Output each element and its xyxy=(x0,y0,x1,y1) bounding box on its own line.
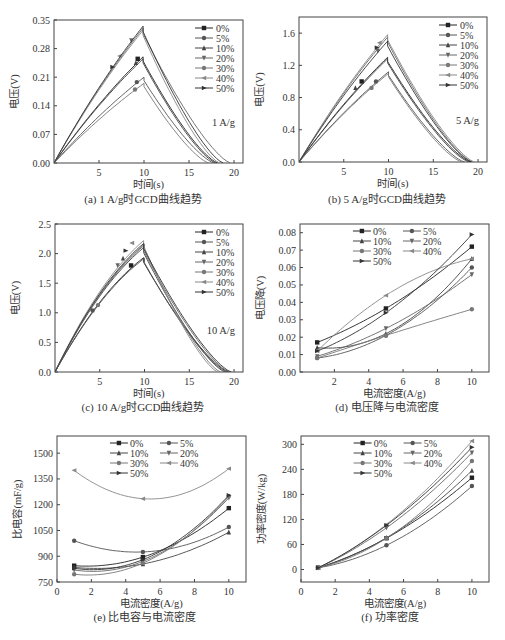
series-line-50% xyxy=(54,26,223,163)
legend-marker-icon xyxy=(360,229,364,233)
x-axis-label: 时间(s) xyxy=(377,177,409,190)
y-tick-label: 1350 xyxy=(33,473,53,484)
legend-marker-icon xyxy=(166,461,171,465)
y-tick-label: 1.5 xyxy=(39,278,52,289)
series-line-30% xyxy=(318,461,472,568)
y-tick-label: 0 xyxy=(292,564,297,575)
series-marker-icon xyxy=(470,265,474,269)
caption-b: (b) 5 A/g时GCD曲线趋势 xyxy=(272,190,502,206)
legend: 0%5%10%20%30%40%50% xyxy=(110,438,198,479)
y-tick-label: 0.28 xyxy=(33,43,51,54)
legend: 0%5%10%20%30%40%50% xyxy=(195,227,234,298)
x-tick-label: 10 xyxy=(467,586,477,597)
caption-a: (a) 1 A/g时GCD曲线趋势 xyxy=(28,190,258,206)
series-line-5% xyxy=(74,527,229,552)
series-marker-icon xyxy=(124,248,129,252)
legend-marker-icon xyxy=(410,461,415,465)
series-line-30% xyxy=(299,73,462,162)
series-line-50% xyxy=(318,447,472,568)
legend-marker-icon xyxy=(360,471,365,475)
x-tick-label: 10 xyxy=(140,376,150,387)
legend-label: 50% xyxy=(373,256,391,267)
chart-a: 0.000.070.140.210.280.355101520时间(s)电压(V… xyxy=(8,15,243,192)
series-marker-icon xyxy=(227,506,231,510)
current-density-annotation: 5 A/g xyxy=(456,115,480,126)
legend-label: 40% xyxy=(180,458,198,469)
series-marker-icon xyxy=(353,85,357,90)
y-tick-label: 0.01 xyxy=(279,349,297,360)
series-marker-icon xyxy=(135,80,139,84)
series-lines xyxy=(71,466,231,576)
series-marker-icon xyxy=(470,484,474,488)
x-tick-label: 5 xyxy=(341,166,346,177)
legend-marker-icon xyxy=(446,33,450,37)
y-tick-label: 0.03 xyxy=(279,314,297,325)
x-tick-label: 20 xyxy=(229,376,239,387)
series-marker-icon xyxy=(470,272,474,277)
x-tick-label: 4 xyxy=(367,586,372,597)
series-lines xyxy=(315,439,474,571)
series-line-40% xyxy=(74,469,229,499)
series-marker-icon xyxy=(72,539,76,543)
figure-grid: 0.000.070.140.210.280.355101520时间(s)电压(V… xyxy=(0,0,505,640)
y-tick-label: 0.8 xyxy=(283,92,296,103)
legend: 0%5%10%20%30%40%50% xyxy=(195,23,234,94)
y-axis-label: 电压降(V) xyxy=(254,275,267,320)
series-marker-icon xyxy=(469,439,474,443)
legend-label: 40% xyxy=(424,458,442,469)
legend-label: 50% xyxy=(216,83,234,94)
series-marker-icon xyxy=(470,468,474,473)
legend-marker-icon xyxy=(167,441,171,445)
series-line-20% xyxy=(55,246,230,372)
series-marker-icon xyxy=(96,303,100,307)
plot-frame xyxy=(301,436,489,582)
legend-label: 40% xyxy=(423,246,441,257)
x-tick-label: 10 xyxy=(467,376,477,387)
legend-marker-icon xyxy=(446,63,450,67)
legend: 0%5%10%20%30%40%50% xyxy=(354,438,442,479)
series-line-20% xyxy=(318,453,472,568)
legend-marker-icon xyxy=(202,240,206,244)
series-line-30% xyxy=(74,496,229,575)
y-tick-label: 0.08 xyxy=(279,227,297,238)
x-tick-label: 6 xyxy=(401,376,406,387)
x-tick-label: 20 xyxy=(473,166,483,177)
y-tick-label: 0.07 xyxy=(33,129,51,140)
series-line-40% xyxy=(54,30,220,163)
x-tick-label: 4 xyxy=(366,376,371,387)
series-line-40% xyxy=(318,441,472,568)
caption-f: (f) 功率密度 xyxy=(275,608,505,624)
chart-c: 0.00.51.01.52.02.55101520时间(s)电压(V)10 A/… xyxy=(9,219,243,401)
series-marker-icon xyxy=(369,86,373,90)
x-tick-label: 5 xyxy=(97,167,102,178)
legend-marker-icon xyxy=(202,270,206,274)
y-tick-label: 0.14 xyxy=(33,100,51,111)
x-tick-label: 0 xyxy=(299,586,304,597)
series-marker-icon xyxy=(470,244,474,248)
legend-marker-icon xyxy=(202,66,206,70)
legend-marker-icon xyxy=(117,441,121,445)
legend-marker-icon xyxy=(360,461,364,465)
y-tick-label: 240 xyxy=(282,464,297,475)
series-line-0% xyxy=(318,478,472,568)
legend-label: 50% xyxy=(374,468,392,479)
y-tick-label: 0.5 xyxy=(39,337,52,348)
series-line-40% xyxy=(55,241,218,372)
y-tick-label: 2.0 xyxy=(39,248,52,259)
x-tick-label: 15 xyxy=(428,166,438,177)
y-tick-label: 0.02 xyxy=(279,332,297,343)
y-tick-label: 900 xyxy=(38,551,53,562)
legend-marker-icon xyxy=(202,86,207,90)
legend-marker-icon xyxy=(202,36,206,40)
series-marker-icon xyxy=(141,550,145,554)
y-tick-label: 0.0 xyxy=(283,157,296,168)
series-marker-icon xyxy=(72,572,76,576)
legend-marker-icon xyxy=(360,249,364,253)
y-tick-label: 60 xyxy=(287,539,297,550)
legend-marker-icon xyxy=(360,259,365,263)
legend-marker-icon xyxy=(360,441,364,445)
legend-marker-icon xyxy=(117,471,122,475)
x-tick-label: 2 xyxy=(333,586,338,597)
x-tick-label: 2 xyxy=(332,376,337,387)
legend-marker-icon xyxy=(409,249,414,253)
